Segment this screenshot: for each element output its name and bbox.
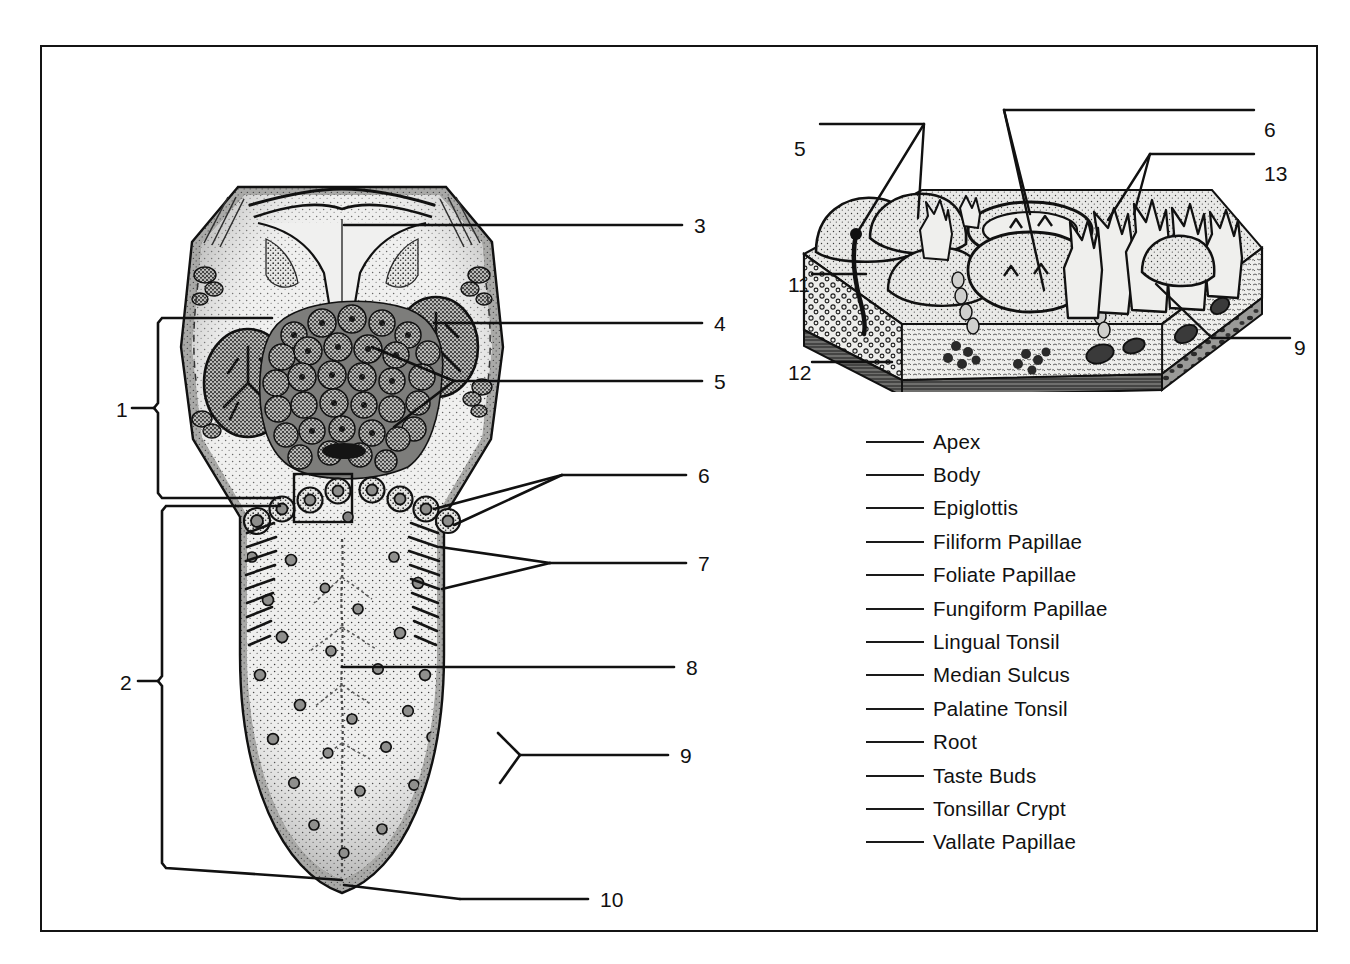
answer-row[interactable]: Root bbox=[866, 726, 1286, 759]
answer-row[interactable]: Filiform Papillae bbox=[866, 525, 1286, 558]
answer-row[interactable]: Palatine Tonsil bbox=[866, 692, 1286, 725]
answer-blank-input[interactable] bbox=[866, 474, 924, 476]
block-callout-label-6: 6 bbox=[1264, 119, 1276, 140]
answer-term-label: Apex bbox=[933, 430, 981, 454]
answer-blank-input[interactable] bbox=[866, 608, 924, 610]
block-callout-label-12: 12 bbox=[788, 362, 811, 383]
answer-term-label: Taste Buds bbox=[933, 764, 1036, 788]
answer-term-label: Epiglottis bbox=[933, 496, 1018, 520]
answer-blank-list: Apex Body Epiglottis Filiform Papillae F… bbox=[866, 425, 1286, 859]
block-callout-label-9: 9 bbox=[1294, 337, 1306, 358]
worksheet-frame: 1 2 3 4 5 6 7 8 9 10 bbox=[40, 45, 1318, 932]
answer-term-label: Foliate Papillae bbox=[933, 563, 1076, 587]
callout-label-9: 9 bbox=[680, 745, 692, 766]
block-callout-label-11: 11 bbox=[788, 274, 810, 295]
answer-blank-input[interactable] bbox=[866, 541, 924, 543]
answer-term-label: Body bbox=[933, 463, 981, 487]
answer-blank-input[interactable] bbox=[866, 708, 924, 710]
answer-term-label: Vallate Papillae bbox=[933, 830, 1076, 854]
answer-blank-input[interactable] bbox=[866, 441, 924, 443]
callout-label-10: 10 bbox=[600, 889, 623, 910]
callout-label-7: 7 bbox=[698, 553, 710, 574]
worksheet-page: 1 2 3 4 5 6 7 8 9 10 bbox=[0, 0, 1350, 964]
answer-row[interactable]: Taste Buds bbox=[866, 759, 1286, 792]
answer-term-label: Palatine Tonsil bbox=[933, 697, 1068, 721]
answer-blank-input[interactable] bbox=[866, 808, 924, 810]
answer-row[interactable]: Lingual Tonsil bbox=[866, 625, 1286, 658]
answer-blank-input[interactable] bbox=[866, 674, 924, 676]
answer-row[interactable]: Tonsillar Crypt bbox=[866, 792, 1286, 825]
answer-blank-input[interactable] bbox=[866, 841, 924, 843]
answer-blank-input[interactable] bbox=[866, 507, 924, 509]
answer-row[interactable]: Epiglottis bbox=[866, 492, 1286, 525]
answer-row[interactable]: Foliate Papillae bbox=[866, 559, 1286, 592]
answer-term-label: Lingual Tonsil bbox=[933, 630, 1060, 654]
answer-row[interactable]: Vallate Papillae bbox=[866, 826, 1286, 859]
callout-label-8: 8 bbox=[686, 657, 698, 678]
lingual-tonsil bbox=[260, 301, 443, 478]
answer-term-label: Tonsillar Crypt bbox=[933, 797, 1066, 821]
answer-blank-input[interactable] bbox=[866, 775, 924, 777]
callout-label-1: 1 bbox=[116, 399, 128, 420]
answer-blank-input[interactable] bbox=[866, 574, 924, 576]
block-callout-label-13: 13 bbox=[1264, 163, 1287, 184]
answer-term-label: Fungiform Papillae bbox=[933, 597, 1108, 621]
tongue-dorsal-figure bbox=[42, 47, 742, 932]
answer-blank-input[interactable] bbox=[866, 641, 924, 643]
answer-row[interactable]: Apex bbox=[866, 425, 1286, 458]
answer-term-label: Filiform Papillae bbox=[933, 530, 1082, 554]
answer-term-label: Median Sulcus bbox=[933, 663, 1070, 687]
answer-row[interactable]: Body bbox=[866, 458, 1286, 491]
answer-term-label: Root bbox=[933, 730, 977, 754]
answer-row[interactable]: Median Sulcus bbox=[866, 659, 1286, 692]
answer-blank-input[interactable] bbox=[866, 741, 924, 743]
callout-label-3: 3 bbox=[694, 215, 706, 236]
papillae-block-figure bbox=[742, 62, 1302, 392]
callout-label-6: 6 bbox=[698, 465, 710, 486]
block-callout-label-5: 5 bbox=[794, 138, 806, 159]
callout-label-4: 4 bbox=[714, 313, 726, 334]
callout-label-5: 5 bbox=[714, 371, 726, 392]
answer-row[interactable]: Fungiform Papillae bbox=[866, 592, 1286, 625]
callout-label-2: 2 bbox=[120, 672, 132, 693]
